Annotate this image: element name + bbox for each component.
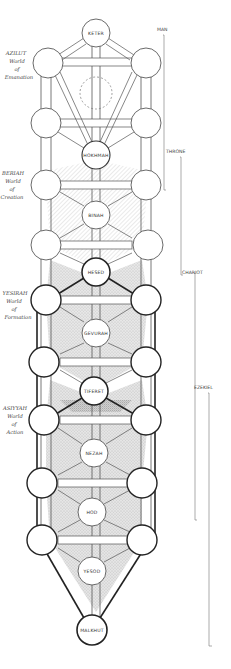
- world-label-beriah: BERIAH World of Creation: [1, 170, 25, 200]
- daat-dashed-circle: [80, 77, 112, 109]
- node-hod: HOD: [78, 498, 106, 526]
- svg-text:HOD: HOD: [86, 510, 97, 515]
- svg-text:TIFERET: TIFERET: [83, 389, 104, 394]
- bracket-label-throne: THRONE: [165, 149, 186, 154]
- svg-text:BERIAH: BERIAH: [1, 170, 24, 176]
- svg-text:KETER: KETER: [88, 31, 104, 36]
- svg-text:HOKHMAH: HOKHMAH: [83, 153, 109, 158]
- bracket-throne: [180, 157, 183, 275]
- svg-text:AZILUT: AZILUT: [5, 50, 27, 56]
- svg-text:World: World: [9, 58, 25, 64]
- svg-text:of: of: [11, 421, 17, 428]
- svg-text:Emanation: Emanation: [4, 74, 33, 80]
- node-tiferet: TIFERET: [80, 377, 108, 405]
- bracket-label-man: MAN: [157, 27, 168, 32]
- svg-text:of: of: [9, 186, 15, 193]
- svg-text:ASIYYAH: ASIYYAH: [2, 405, 28, 411]
- svg-text:GEVURAH: GEVURAH: [84, 331, 108, 336]
- svg-text:World: World: [5, 178, 21, 184]
- bracket-ezekiel: [208, 393, 212, 646]
- svg-text:YESOD: YESOD: [83, 569, 101, 574]
- svg-text:World: World: [6, 298, 22, 304]
- node-keter: KETER: [82, 19, 110, 47]
- node-nezah: NEZAH: [80, 439, 108, 467]
- svg-text:BINAH: BINAH: [88, 213, 104, 218]
- svg-text:Creation: Creation: [1, 194, 24, 200]
- node-yesod: YESOD: [78, 557, 106, 585]
- svg-text:HESED: HESED: [88, 270, 105, 275]
- svg-text:of: of: [11, 306, 17, 313]
- world-label-azilut: AZILUT World of Emanation: [4, 50, 33, 80]
- svg-text:of: of: [14, 66, 20, 73]
- bracket-label-chariot: CHARIOT: [182, 270, 203, 275]
- svg-text:Action: Action: [6, 429, 24, 435]
- world-label-asiyyah: ASIYYAH World of Action: [2, 405, 28, 435]
- bracket-man: [163, 35, 166, 190]
- svg-text:Formation: Formation: [3, 314, 31, 320]
- node-hokhmah: HOKHMAH: [82, 141, 110, 169]
- node-gevurah: GEVURAH: [82, 319, 110, 347]
- node-malkhut: MALKHUT: [77, 615, 107, 645]
- bracket-chariot: [194, 273, 197, 520]
- svg-text:NEZAH: NEZAH: [85, 451, 102, 456]
- world-label-yesirah: YESIRAH World of Formation: [3, 290, 32, 320]
- svg-text:YESIRAH: YESIRAH: [3, 290, 28, 296]
- svg-text:MALKHUT: MALKHUT: [80, 628, 104, 633]
- svg-text:World: World: [7, 413, 23, 419]
- bracket-label-ezekiel: EZEKIEL: [194, 385, 213, 390]
- tree-of-life-diagram: KETER HOKHMAH BINAH HESED GEVURAH TIFERE…: [0, 0, 231, 669]
- node-hesed: HESED: [82, 258, 110, 286]
- node-binah: BINAH: [82, 201, 110, 229]
